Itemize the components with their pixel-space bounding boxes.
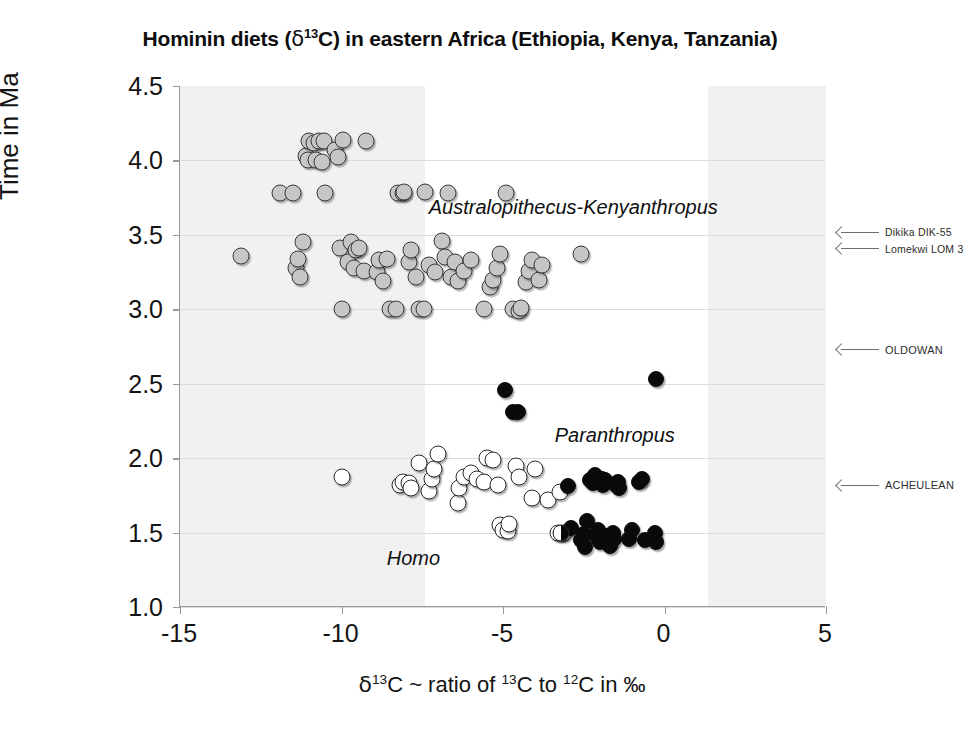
shaded-band-C4-rich-band	[708, 86, 826, 606]
annotation-label: OLDOWAN	[885, 344, 943, 356]
xlabel-superscript-13b: 13	[501, 672, 516, 687]
y-tick-mark-1.0	[173, 607, 180, 608]
data-point	[388, 301, 405, 318]
y-tick-label-3.0: 3.0	[101, 295, 163, 324]
data-point	[560, 478, 576, 494]
xlabel-text-1: C ~ ratio of	[387, 672, 501, 697]
data-point	[572, 246, 589, 263]
y-tick-mark-4.5	[173, 86, 180, 87]
y-tick-mark-4.0	[173, 160, 180, 161]
xlabel-text-3: C in ‰	[578, 672, 645, 697]
y-axis-label: Time in Ma	[0, 72, 25, 200]
annotation-label: Lomekwi LOM 3	[885, 243, 963, 255]
data-point	[533, 256, 550, 273]
data-point	[427, 264, 444, 281]
x-tick-label--10: -10	[301, 619, 381, 648]
y-tick-label-2.0: 2.0	[101, 444, 163, 473]
data-point	[462, 252, 479, 269]
data-point	[330, 149, 347, 166]
y-tick-mark-1.5	[173, 533, 180, 534]
data-point	[485, 451, 502, 468]
data-point	[425, 460, 442, 477]
annotation-lomekwi: Lomekwi LOM 3	[837, 243, 963, 255]
gridline-y-4.0	[180, 160, 825, 161]
xlabel-superscript-12: 12	[563, 672, 578, 687]
gridline-y-2.0	[180, 458, 825, 459]
x-tick-mark--5	[503, 606, 504, 614]
data-point	[449, 494, 466, 511]
chart-figure: Hominin diets (δ13C) in eastern Africa (…	[0, 0, 975, 739]
x-tick-label--15: -15	[139, 619, 219, 648]
data-point	[510, 404, 526, 420]
data-point	[351, 240, 368, 257]
y-tick-mark-3.5	[173, 235, 180, 236]
y-tick-mark-3.0	[173, 309, 180, 310]
title-delta-symbol: δ	[291, 27, 304, 51]
y-tick-mark-2.5	[173, 384, 180, 385]
data-point	[233, 247, 250, 264]
x-tick-label-5: 5	[785, 619, 865, 648]
data-point	[378, 250, 395, 267]
arrow-left-icon	[837, 227, 879, 237]
data-point	[497, 382, 513, 398]
data-point	[402, 241, 419, 258]
data-point	[648, 371, 664, 387]
gridline-y-3.0	[180, 309, 825, 310]
data-point	[333, 469, 350, 486]
annotation-acheulean: ACHEULEAN	[837, 479, 954, 491]
data-point	[648, 534, 664, 550]
taxon-label-australopithecus: Australopithecus-Kenyanthropus	[429, 196, 718, 219]
title-text-mid: C) in eastern Africa (Ethiopia, Kenya, T…	[318, 27, 778, 50]
gridline-y-3.5	[180, 235, 825, 236]
data-point	[357, 133, 374, 150]
taxon-label-paranthropus: Paranthropus	[555, 424, 675, 447]
data-point	[415, 301, 432, 318]
data-point	[375, 273, 392, 290]
data-point	[294, 234, 311, 251]
data-point	[611, 480, 627, 496]
data-point	[512, 299, 529, 316]
arrow-left-icon	[837, 345, 879, 355]
plot-area: HomoParanthropusAustralopithecus-Kenyant…	[179, 86, 825, 607]
data-point	[553, 524, 570, 541]
data-point	[527, 460, 544, 477]
data-point	[491, 246, 508, 263]
y-tick-label-1.5: 1.5	[101, 518, 163, 547]
xlabel-delta-symbol: δ	[359, 672, 372, 697]
data-point	[433, 232, 450, 249]
data-point	[285, 185, 302, 202]
y-tick-label-3.5: 3.5	[101, 220, 163, 249]
annotation-label: ACHEULEAN	[885, 479, 954, 491]
title-superscript-13: 13	[304, 26, 318, 41]
data-point	[402, 479, 419, 496]
xlabel-text-2: C to	[517, 672, 563, 697]
annotation-label: Dikika DIK-55	[885, 226, 952, 238]
data-point	[396, 183, 413, 200]
arrow-left-icon	[837, 480, 879, 490]
x-tick-mark-5	[826, 606, 827, 614]
taxon-label-homo: Homo	[387, 547, 440, 570]
x-axis-label: δ13C ~ ratio of 13C to 12C in ‰	[179, 672, 825, 698]
y-tick-label-4.0: 4.0	[101, 146, 163, 175]
data-point	[530, 271, 547, 288]
data-point	[490, 476, 507, 493]
x-tick-label--5: -5	[462, 619, 542, 648]
data-point	[475, 301, 492, 318]
data-point	[524, 490, 541, 507]
title-text-pre: Hominin diets (	[143, 27, 292, 50]
data-point	[333, 301, 350, 318]
data-point	[634, 471, 650, 487]
arrow-left-icon	[837, 244, 879, 254]
data-point	[289, 250, 306, 267]
data-point	[291, 268, 308, 285]
x-tick-mark-0	[665, 606, 666, 614]
data-point	[317, 185, 334, 202]
y-tick-label-2.5: 2.5	[101, 369, 163, 398]
data-point	[335, 131, 352, 148]
x-tick-mark--10	[342, 606, 343, 614]
xlabel-superscript-13a: 13	[372, 672, 387, 687]
data-point	[430, 445, 447, 462]
y-tick-mark-2.0	[173, 458, 180, 459]
y-tick-label-4.5: 4.5	[101, 72, 163, 101]
x-tick-mark--15	[180, 606, 181, 614]
